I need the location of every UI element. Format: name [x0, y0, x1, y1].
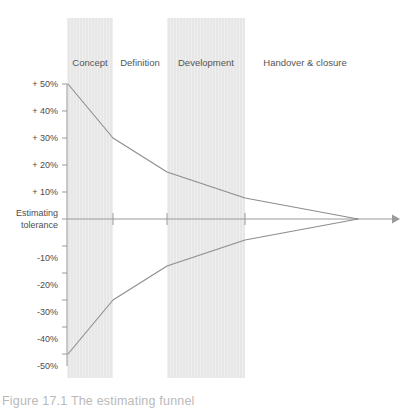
upper-tolerance-line — [68, 84, 358, 219]
x-axis-arrowhead — [392, 215, 400, 224]
figure-caption: Figure 17.1 The estimating funnel — [2, 394, 195, 408]
lower-tolerance-line — [68, 219, 358, 354]
